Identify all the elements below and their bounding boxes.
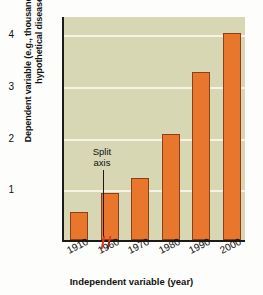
plot-inner bbox=[64, 17, 245, 240]
bar-1980 bbox=[162, 134, 180, 240]
split-axis-leader-line bbox=[103, 170, 104, 238]
bar-1990 bbox=[192, 72, 210, 240]
split-axis-annotation-line1: Split bbox=[93, 146, 111, 157]
y-tick-label: 4 bbox=[0, 29, 14, 40]
bar-1910 bbox=[70, 212, 88, 240]
y-tick-label: 1 bbox=[0, 184, 14, 195]
gridline bbox=[64, 139, 245, 141]
y-tick-label: 3 bbox=[0, 81, 14, 92]
gridline bbox=[64, 190, 245, 192]
x-axis-title: Independent variable (year) bbox=[0, 276, 263, 287]
split-axis-annotation-line2: axis bbox=[94, 157, 111, 168]
bar-1970 bbox=[131, 178, 149, 240]
plot-area bbox=[62, 17, 245, 242]
split-axis-annotation: Split axis bbox=[79, 146, 125, 168]
gridline bbox=[64, 87, 245, 89]
y-tick-label: 2 bbox=[0, 133, 14, 144]
y-axis-title: Dependent variable (e.g., thousands of c… bbox=[17, 0, 51, 153]
bar-2000 bbox=[223, 33, 241, 240]
bar-chart-figure: Dependent variable (e.g., thousands of c… bbox=[0, 0, 263, 295]
gridline bbox=[64, 35, 245, 37]
